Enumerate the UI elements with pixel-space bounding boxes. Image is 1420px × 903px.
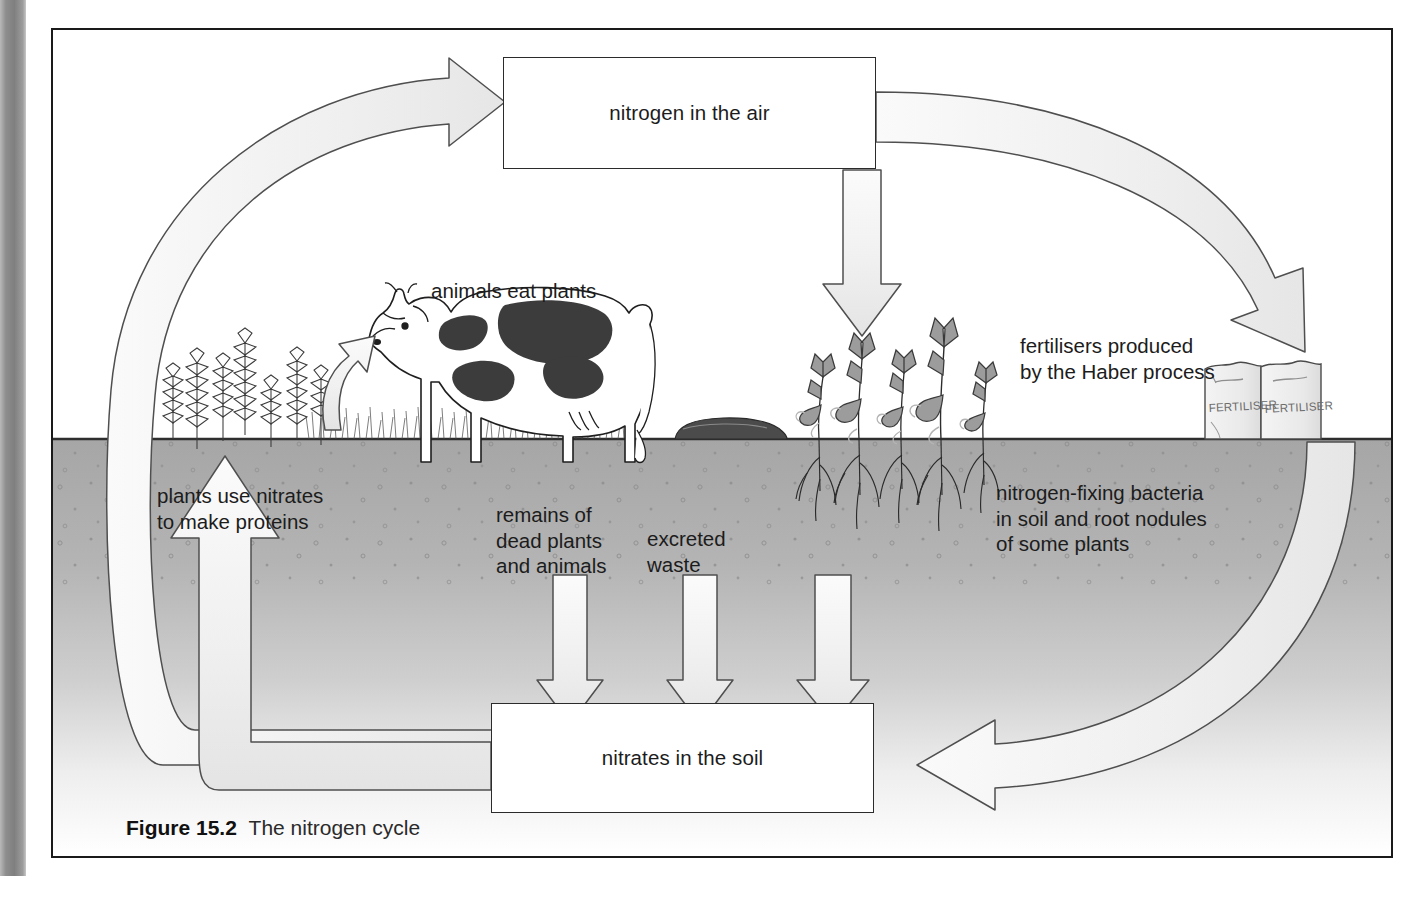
arrow-remains-to-soil [537,575,603,724]
label-fertilisers-haber: fertilisers produced by the Haber proces… [1020,333,1215,384]
label-plants-use-nitrates: plants use nitrates to make proteins [157,483,323,534]
figure-page: FERTILISER FERTILISER [0,0,1420,903]
label-excreted-waste: excreted waste [647,526,726,577]
arrow-soil-to-air [107,58,505,765]
figure-caption: Figure 15.2 The nitrogen cycle [126,816,420,840]
node-nitrogen-in-air-label: nitrogen in the air [609,101,769,125]
node-nitrogen-in-air[interactable]: nitrogen in the air [503,57,876,169]
arrow-bacteria-to-soil [797,575,869,724]
page-gutter-bar [0,0,26,876]
figure-caption-number: Figure 15.2 [126,816,237,839]
arrow-plants-to-animals [323,336,375,430]
label-nitrogen-fixing-bacteria: nitrogen-fixing bacteria in soil and roo… [996,480,1207,557]
diagram-canvas: FERTILISER FERTILISER [53,30,1391,856]
label-animals-eat-plants: animals eat plants [431,278,596,304]
label-remains-dead-plants: remains of dead plants and animals [496,502,607,579]
arrow-air-to-bacteria [823,170,901,336]
figure-caption-text: The nitrogen cycle [249,816,421,839]
node-nitrates-in-soil[interactable]: nitrates in the soil [491,703,874,813]
arrow-air-to-fertilisers [876,92,1305,352]
node-nitrates-in-soil-label: nitrates in the soil [602,746,764,770]
figure-frame: FERTILISER FERTILISER [51,28,1393,858]
arrow-excreted-to-soil [667,575,733,724]
